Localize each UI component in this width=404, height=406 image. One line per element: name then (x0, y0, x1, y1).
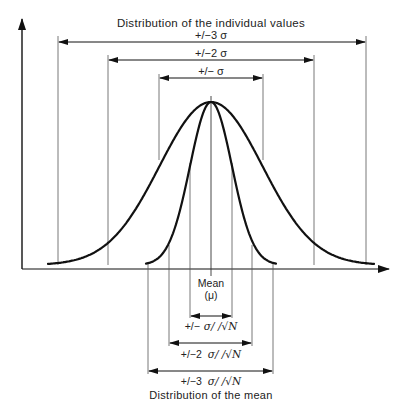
title-individual-values: Distribution of the individual values (117, 17, 305, 29)
sigma-2-label: +/−2 σ (195, 47, 227, 59)
mean-interval-2: +/−2σ/ /√N (170, 343, 251, 360)
mean-interval-1: +/−σ/ /√N (185, 316, 238, 332)
mean-interval-3-label: +/−3σ/ /√N (181, 375, 242, 387)
mean-interval-1-label: +/−σ/ /√N (185, 320, 238, 332)
sigma-1-interval: +/− σ (160, 65, 262, 78)
sigma-3-label: +/−3 σ (195, 29, 227, 41)
mean-interval-3: +/−3σ/ /√N (149, 371, 272, 387)
sigma-3-interval: +/−3 σ (59, 29, 365, 42)
mean-symbol: (μ) (204, 289, 217, 301)
mean-label: Mean (198, 277, 224, 289)
title-distribution-of-mean: Distribution of the mean (149, 389, 272, 401)
mean-interval-2-label: +/−2σ/ /√N (181, 348, 242, 360)
distribution-diagram: Distribution of the individual values +/… (0, 0, 404, 406)
sigma-1-label: +/− σ (198, 65, 224, 77)
sigma-2-interval: +/−2 σ (109, 47, 313, 60)
